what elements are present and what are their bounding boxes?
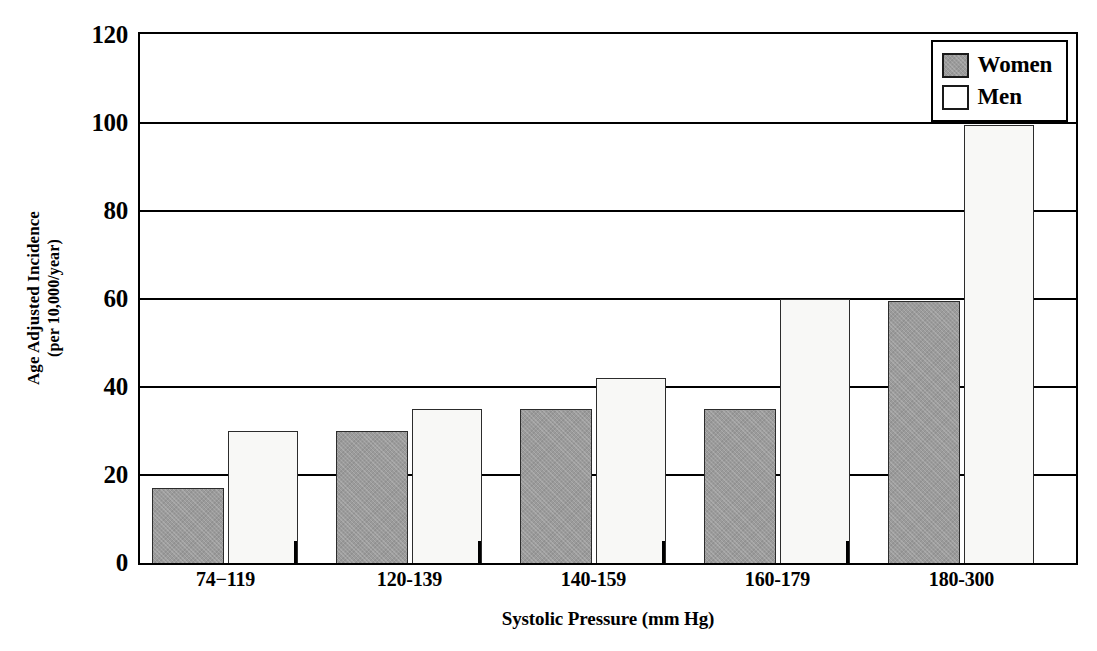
x-axis-tick-mark-3 xyxy=(846,541,849,563)
bar-women-160-179 xyxy=(704,409,776,563)
bar-men-180-300 xyxy=(964,125,1034,563)
gridline-80 xyxy=(140,210,1076,213)
bar-women-120-139 xyxy=(336,431,408,563)
legend: Women Men xyxy=(931,40,1068,122)
legend-swatch-men-icon xyxy=(942,85,969,110)
legend-swatch-women-icon xyxy=(942,53,969,78)
y-axis-tick-120: 120 xyxy=(91,21,128,49)
bar-men-74−119 xyxy=(228,431,298,563)
y-axis-tick-40: 40 xyxy=(104,373,128,401)
bar-men-120-139 xyxy=(412,409,482,563)
x-axis-tick-label-2: 140-159 xyxy=(561,568,626,591)
x-axis-tick-mark-0 xyxy=(294,541,297,563)
y-axis-tick-80: 80 xyxy=(104,197,128,225)
bar-women-140-159 xyxy=(520,409,592,563)
x-axis-tick-label-1: 120-139 xyxy=(377,568,442,591)
legend-label-men: Men xyxy=(978,84,1022,110)
legend-label-women: Women xyxy=(978,52,1052,78)
y-axis-tick-0: 0 xyxy=(116,549,128,577)
y-axis-tick-100: 100 xyxy=(91,109,128,137)
y-axis-title-line1: Age Adjusted Incidence xyxy=(24,211,43,385)
x-axis-tick-labels: 74−119120-139140-159160-179180-300 xyxy=(138,568,1078,604)
bar-men-160-179 xyxy=(780,299,850,563)
y-axis-tick-20: 20 xyxy=(104,461,128,489)
x-axis-tick-label-4: 180-300 xyxy=(929,568,994,591)
plot-area: Women Men xyxy=(138,32,1078,565)
x-axis-tick-mark-2 xyxy=(662,541,665,563)
x-axis-tick-label-3: 160-179 xyxy=(745,568,810,591)
y-axis-tick-labels: 020406080100120 xyxy=(56,0,138,651)
bar-chart-figure: Age Adjusted Incidence (per 10,000/year)… xyxy=(0,0,1097,651)
legend-item-men: Men xyxy=(942,81,1052,113)
bar-women-180-300 xyxy=(888,301,960,563)
gridline-60 xyxy=(140,298,1076,301)
x-axis-tick-mark-1 xyxy=(478,541,481,563)
x-axis-tick-label-0: 74−119 xyxy=(196,568,255,591)
legend-item-women: Women xyxy=(942,49,1052,81)
x-axis-title: Systolic Pressure (mm Hg) xyxy=(138,608,1078,630)
bar-women-74−119 xyxy=(152,488,224,563)
bar-men-140-159 xyxy=(596,378,666,563)
y-axis-tick-60: 60 xyxy=(104,285,128,313)
gridline-100 xyxy=(140,122,1076,125)
